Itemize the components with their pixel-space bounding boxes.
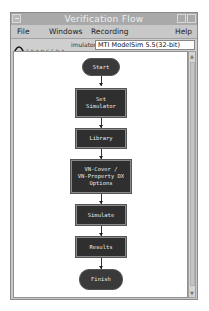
flow-node-results[interactable]: Results — [75, 236, 127, 258]
simulator-field[interactable]: MTI ModelSim 5.5(32-bit) — [95, 40, 195, 50]
flow-node-vn-cover-options[interactable]: VN-Cover / VN-Property DX Options — [70, 159, 132, 194]
arrow-down-icon — [99, 83, 103, 86]
flow-node-library[interactable]: Library — [75, 128, 127, 149]
flow-node-start[interactable]: Start — [82, 58, 120, 76]
scroll-up-icon[interactable]: ▲ — [189, 52, 195, 60]
scroll-down-icon[interactable]: ▼ — [189, 289, 195, 297]
scrollbar-thumb[interactable] — [190, 62, 195, 286]
menu-bar: File Windows Recording Help — [11, 25, 197, 38]
menu-windows[interactable]: Windows — [49, 26, 82, 37]
maximize-button[interactable] — [187, 14, 196, 23]
title-bar[interactable]: Verification Flow — [11, 13, 197, 25]
minimize-button[interactable] — [177, 14, 186, 23]
simulator-label: imulator — [71, 41, 96, 49]
vertical-scrollbar[interactable]: ▲ ▼ — [188, 51, 196, 298]
flow-canvas: Start Set Simulator Library VN-Cover / V… — [13, 51, 188, 298]
menu-recording[interactable]: Recording — [91, 26, 129, 37]
flow-node-finish[interactable]: Finish — [79, 269, 123, 290]
flow-node-set-simulator[interactable]: Set Simulator — [75, 88, 127, 118]
menu-file[interactable]: File — [17, 26, 30, 37]
window-title: Verification Flow — [11, 13, 197, 25]
flow-node-simulate[interactable]: Simulate — [75, 204, 127, 226]
verification-flow-window: Verification Flow File Windows Recording… — [10, 12, 198, 300]
menu-help[interactable]: Help — [175, 26, 192, 37]
simulator-toolbar: TRANSEDA imulator MTI ModelSim 5.5(32-bi… — [11, 38, 197, 51]
